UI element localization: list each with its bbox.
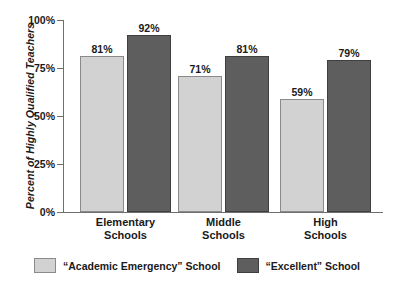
bar-value-label: 92% bbox=[138, 22, 159, 34]
bar-value-label: 81% bbox=[236, 43, 257, 55]
x-category-high: High Schools bbox=[266, 216, 386, 242]
bar-value-label: 79% bbox=[338, 47, 359, 59]
bar-value-label: 71% bbox=[189, 63, 210, 75]
bar-elementary-excellent[interactable]: 92% bbox=[127, 35, 171, 212]
bar-chart: Percent of Highly Qualified Teachers 100… bbox=[0, 0, 394, 294]
y-tick-mark bbox=[57, 20, 63, 21]
bar-middle-academic-emergency[interactable]: 71% bbox=[178, 76, 222, 212]
legend-label: “Excellent” School bbox=[266, 260, 361, 272]
legend-item-excellent[interactable]: “Excellent” School bbox=[237, 258, 361, 273]
y-axis-line bbox=[63, 20, 64, 212]
bar-value-label: 81% bbox=[91, 43, 112, 55]
bar-high-excellent[interactable]: 79% bbox=[327, 60, 371, 212]
bar-high-academic-emergency[interactable]: 59% bbox=[280, 99, 324, 212]
plot-area: 100% 75% 50% 25% 0% 81% 92% 71% bbox=[63, 20, 383, 212]
bar-middle-excellent[interactable]: 81% bbox=[225, 56, 269, 212]
x-axis-line bbox=[63, 212, 383, 213]
x-category-line1: High bbox=[266, 216, 386, 229]
x-category-line2: Schools bbox=[266, 229, 386, 242]
y-tick-label: 75% bbox=[34, 62, 55, 74]
legend-label: “Academic Emergency” School bbox=[63, 260, 221, 272]
dark-swatch-icon bbox=[237, 258, 259, 273]
legend-item-academic-emergency[interactable]: “Academic Emergency” School bbox=[34, 258, 221, 273]
bar-elementary-academic-emergency[interactable]: 81% bbox=[80, 56, 124, 212]
y-tick-label: 0% bbox=[40, 206, 55, 218]
light-swatch-icon bbox=[34, 258, 56, 273]
y-tick-label: 25% bbox=[34, 158, 55, 170]
y-tick-label: 50% bbox=[34, 110, 55, 122]
y-tick-mark bbox=[57, 116, 63, 117]
bar-value-label: 59% bbox=[291, 86, 312, 98]
y-tick-mark bbox=[57, 212, 63, 213]
y-tick-mark bbox=[57, 164, 63, 165]
y-tick-label: 100% bbox=[28, 14, 55, 26]
y-tick-mark bbox=[57, 68, 63, 69]
chart-legend: “Academic Emergency” School “Excellent” … bbox=[0, 258, 394, 273]
